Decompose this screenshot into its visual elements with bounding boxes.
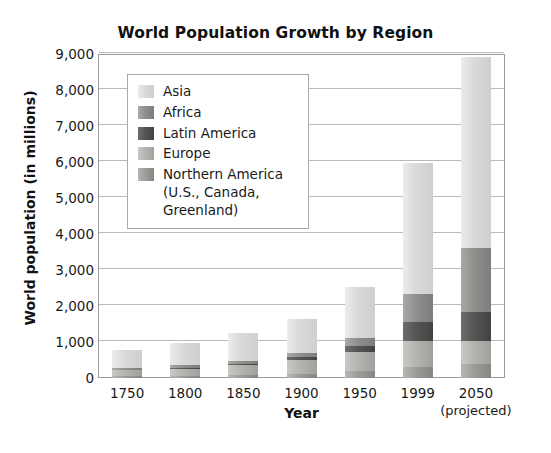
legend-item: Latin America	[138, 125, 302, 143]
legend-swatch	[138, 85, 154, 98]
legend-label: Northern America(U.S., Canada,Greenland)	[163, 166, 283, 219]
legend-swatch	[138, 127, 154, 140]
chart-title: World Population Growth by Region	[0, 24, 551, 42]
x-tick-label: 1750	[110, 384, 144, 402]
legend-swatch	[138, 106, 154, 119]
y-tick-label: 0	[34, 370, 94, 386]
y-tick-label: 8,000	[34, 82, 94, 98]
chart-legend: AsiaAfricaLatin AmericaEuropeNorthern Am…	[127, 74, 309, 229]
legend-item: Asia	[138, 83, 302, 101]
y-tick-label: 3,000	[34, 262, 94, 278]
y-tick-label: 6,000	[34, 154, 94, 170]
legend-item: Northern America(U.S., Canada,Greenland)	[138, 166, 302, 219]
y-tick-label: 7,000	[34, 118, 94, 134]
x-axis-title: Year	[98, 405, 505, 421]
legend-swatch	[138, 168, 154, 181]
y-tick-label: 9,000	[34, 46, 94, 62]
y-tick-label: 2,000	[34, 298, 94, 314]
legend-swatch	[138, 147, 154, 160]
gridline	[99, 268, 504, 269]
legend-item: Europe	[138, 145, 302, 163]
gridline	[99, 340, 504, 341]
legend-item: Africa	[138, 104, 302, 122]
gridline	[99, 52, 504, 53]
gridline	[99, 232, 504, 233]
chart-figure: World Population Growth by Region World …	[0, 0, 551, 453]
legend-label-continuation: (U.S., Canada,	[163, 184, 283, 202]
y-tick-label: 1,000	[34, 334, 94, 350]
y-tick-label: 4,000	[34, 226, 94, 242]
x-tick-label: 1850	[226, 384, 260, 402]
x-tick-label: 1950	[342, 384, 376, 402]
x-tick-label: 1800	[168, 384, 202, 402]
legend-label: Europe	[163, 145, 210, 163]
x-tick-label: 1999	[401, 384, 435, 402]
legend-label-continuation: Greenland)	[163, 202, 283, 220]
gridline	[99, 304, 504, 305]
y-tick-label: 5,000	[34, 190, 94, 206]
legend-label: Latin America	[163, 125, 256, 143]
x-tick-label: 1900	[284, 384, 318, 402]
legend-label: Africa	[163, 104, 202, 122]
legend-label: Asia	[163, 83, 191, 101]
